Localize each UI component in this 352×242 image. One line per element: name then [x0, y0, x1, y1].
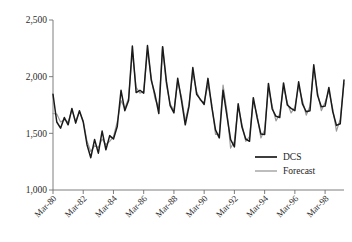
- x-axis-tick-labels: Mar-80Mar-82Mar-84Mar-86Mar-88Mar-90Mar-…: [32, 193, 330, 219]
- legend-label-dcs: DCS: [283, 152, 301, 162]
- series-lines: [53, 46, 344, 158]
- y-axis-tick-marks: [49, 20, 53, 190]
- line-chart: 1,0001,5002,0002,500 Mar-80Mar-82Mar-84M…: [0, 0, 352, 242]
- x-axis-tick-label: Mar-90: [184, 193, 210, 219]
- x-axis-tick-label: Mar-82: [63, 193, 89, 219]
- y-axis-tick-labels: 1,0001,5002,0002,500: [26, 15, 48, 195]
- x-axis-tick-label: Mar-96: [274, 193, 300, 219]
- legend-label-forecast: Forecast: [283, 166, 316, 176]
- x-axis-tick-label: Mar-92: [214, 193, 240, 219]
- x-axis-tick-label: Mar-84: [93, 193, 119, 219]
- x-axis-tick-label: Mar-88: [153, 193, 179, 219]
- y-axis-tick-label: 2,000: [26, 72, 48, 82]
- y-axis-tick-label: 2,500: [26, 15, 48, 25]
- series-line-dcs: [53, 46, 344, 158]
- chart-page: 1,0001,5002,0002,500 Mar-80Mar-82Mar-84M…: [0, 0, 352, 242]
- y-axis-tick-label: 1,500: [26, 129, 48, 139]
- chart-legend: DCSForecast: [255, 152, 316, 176]
- x-axis-tick-marks: [53, 190, 325, 194]
- series-line-forecast: [53, 47, 344, 152]
- x-axis-tick-label: Mar-98: [304, 193, 330, 219]
- x-axis-tick-label: Mar-86: [123, 193, 149, 219]
- y-axis-tick-label: 1,000: [26, 185, 48, 195]
- x-axis-tick-label: Mar-80: [32, 193, 58, 219]
- x-axis-tick-label: Mar-94: [244, 193, 270, 219]
